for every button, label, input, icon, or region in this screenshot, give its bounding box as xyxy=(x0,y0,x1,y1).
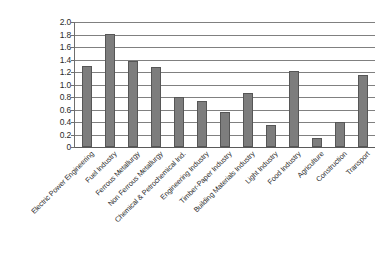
y-axis-tick-mark xyxy=(71,135,75,136)
y-axis-tick-mark xyxy=(71,110,75,111)
x-axis-category-label: Ferrous Metallurgy xyxy=(94,150,141,197)
y-axis-tick-label: 1.4 xyxy=(49,56,71,65)
gridline xyxy=(75,60,375,61)
bar xyxy=(220,112,230,147)
bar xyxy=(105,34,115,147)
y-axis-tick-mark xyxy=(71,97,75,98)
x-axis-category-label: Agriculture xyxy=(296,150,325,179)
bar xyxy=(289,71,299,147)
gridline xyxy=(75,22,375,23)
bar xyxy=(82,66,92,147)
y-axis-tick-mark xyxy=(71,72,75,73)
y-axis-tick-label: 0.6 xyxy=(49,106,71,115)
plot-area xyxy=(75,22,375,147)
x-axis-line xyxy=(75,147,375,148)
x-axis-category-label: Engineering Industry xyxy=(159,150,210,201)
bar xyxy=(174,97,184,147)
gridline xyxy=(75,72,375,73)
y-axis-tick-label: 0.8 xyxy=(49,93,71,102)
bar xyxy=(312,138,322,147)
gridline xyxy=(75,110,375,111)
bar-chart: 2.01.81.61.41.21.00.80.60.40.20 Electric… xyxy=(0,0,382,254)
y-axis-tick-label: 2.0 xyxy=(49,18,71,27)
x-axis-category-label: Chemical & Petrochemical Ind. xyxy=(113,150,187,224)
gridline xyxy=(75,47,375,48)
bar xyxy=(358,75,368,147)
gridline xyxy=(75,35,375,36)
gridline xyxy=(75,85,375,86)
x-axis-category-label: Timber-Paper Industry xyxy=(178,150,233,205)
x-axis-category-label: Non Ferrous Metallurgy xyxy=(106,150,164,208)
bar xyxy=(266,125,276,148)
bar xyxy=(197,101,207,147)
y-axis-tick-mark xyxy=(71,47,75,48)
y-axis-tick-mark xyxy=(71,85,75,86)
x-axis-category-label: Fuel Industry xyxy=(84,150,118,184)
y-axis-tick-label: 1.0 xyxy=(49,81,71,90)
y-axis-tick-mark xyxy=(71,147,75,148)
bar xyxy=(151,67,161,147)
y-axis-tick-mark xyxy=(71,22,75,23)
y-axis-tick-mark xyxy=(71,122,75,123)
y-axis-tick-mark xyxy=(71,60,75,61)
bar xyxy=(335,122,345,147)
y-axis-tick-label: 1.8 xyxy=(49,31,71,40)
x-axis-category-label: Transport xyxy=(345,150,372,177)
x-axis-category-label: Food Industry xyxy=(267,150,303,186)
bar xyxy=(128,61,138,147)
x-axis-category-label: Light Industry xyxy=(244,150,279,185)
y-axis-tick-mark xyxy=(71,35,75,36)
x-axis-category-label: Building Materials Industry xyxy=(192,150,256,214)
y-axis-tick-label: 0.4 xyxy=(49,118,71,127)
y-axis-tick-label: 0.2 xyxy=(49,131,71,140)
y-axis-tick-label: 1.2 xyxy=(49,68,71,77)
y-axis-tick-label: 0 xyxy=(49,143,71,152)
gridline xyxy=(75,97,375,98)
bar xyxy=(243,93,253,147)
y-axis-tick-label: 1.6 xyxy=(49,43,71,52)
y-axis-tick-labels: 2.01.81.61.41.21.00.80.60.40.20 xyxy=(47,0,71,254)
x-axis-category-label: Construction xyxy=(315,150,348,183)
